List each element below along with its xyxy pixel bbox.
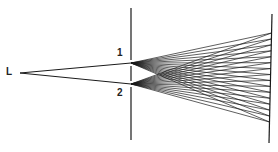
diffracted-ray-slit-2 — [131, 84, 270, 116]
double-slit-diagram: L 1 2 — [0, 0, 278, 152]
diffracted-ray-slit-2 — [131, 84, 270, 104]
incident-ray-2 — [20, 73, 131, 84]
source-label: L — [6, 67, 12, 77]
diffracted-ray-slit-1 — [131, 57, 271, 63]
diagram-canvas — [0, 0, 278, 152]
incident-ray-1 — [20, 63, 131, 73]
slit-1-label: 1 — [117, 48, 123, 58]
slit-2-label: 2 — [117, 88, 123, 98]
diffracted-ray-slit-1 — [131, 45, 271, 63]
